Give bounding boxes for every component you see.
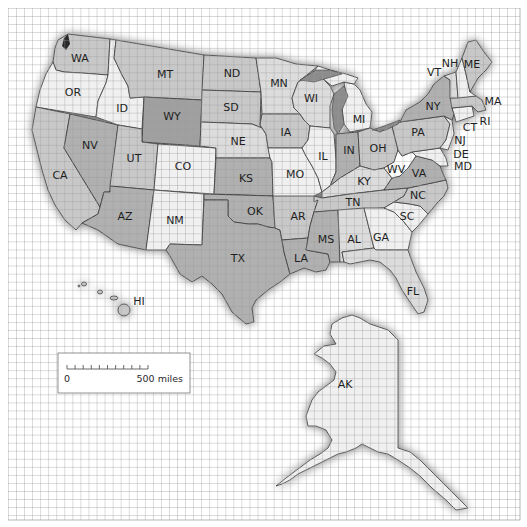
state-label-ga: GA [373, 231, 390, 244]
state-label-ar: AR [290, 210, 306, 223]
state-label-id: ID [116, 102, 128, 115]
state-label-mi: MI [353, 113, 366, 126]
scale-start-label: 0 [64, 373, 70, 384]
state-label-ia: IA [281, 126, 292, 139]
state-label-ms: MS [318, 233, 334, 246]
state-label-nd: ND [224, 67, 241, 80]
state-label-ut: UT [127, 152, 142, 165]
state-label-ma: MA [484, 95, 501, 108]
state-label-co: CO [175, 160, 192, 173]
state-label-ct: CT [463, 121, 478, 134]
state-label-ca: CA [52, 169, 68, 182]
state-label-wi: WI [304, 92, 318, 105]
state-label-la: LA [294, 252, 308, 265]
state-label-hi: HI [133, 295, 145, 308]
state-label-nm: NM [166, 214, 184, 227]
state-label-mt: MT [157, 68, 173, 81]
state-label-in: IN [343, 144, 354, 157]
state-label-al: AL [347, 233, 362, 246]
state-label-ks: KS [239, 172, 253, 185]
state-label-va: VA [412, 167, 427, 180]
state-label-ky: KY [357, 175, 371, 188]
state-label-mn: MN [270, 77, 288, 90]
state-label-ri: RI [480, 115, 491, 128]
state-label-or: OR [65, 86, 82, 99]
state-label-vt: VT [427, 66, 442, 79]
grid-overlay [8, 8, 520, 520]
state-label-sd: SD [223, 101, 238, 114]
state-label-wy: WY [163, 110, 181, 123]
state-label-ny: NY [426, 100, 441, 113]
state-label-nj: NJ [454, 134, 465, 147]
scale-bar: 0 500 miles [58, 353, 190, 393]
state-label-ne: NE [230, 135, 245, 148]
state-label-ak: AK [338, 378, 354, 391]
map-canvas: WAORCANVIDMTWYUTCOAZNMNDSDNEKSOKTXMNIAMO… [0, 0, 527, 527]
state-label-nc: NC [410, 189, 426, 202]
state-label-fl: FL [407, 285, 420, 298]
state-label-tx: TX [230, 252, 246, 265]
state-label-oh: OH [370, 142, 387, 155]
state-label-md: MD [454, 160, 472, 173]
scale-end-label: 500 miles [137, 373, 184, 384]
state-label-il: IL [318, 150, 328, 163]
state-label-tn: TN [345, 196, 361, 209]
us-map: WAORCANVIDMTWYUTCOAZNMNDSDNEKSOKTXMNIAMO… [0, 0, 527, 527]
state-label-wa: WA [71, 52, 89, 65]
state-label-pa: PA [411, 126, 425, 139]
state-label-mo: MO [286, 168, 304, 181]
state-label-nv: NV [82, 139, 98, 152]
state-label-me: ME [464, 58, 480, 71]
state-label-nh: NH [442, 57, 459, 70]
state-label-sc: SC [400, 210, 415, 223]
state-label-ok: OK [247, 205, 264, 218]
state-label-wv: WV [387, 163, 406, 176]
state-label-az: AZ [117, 210, 133, 223]
